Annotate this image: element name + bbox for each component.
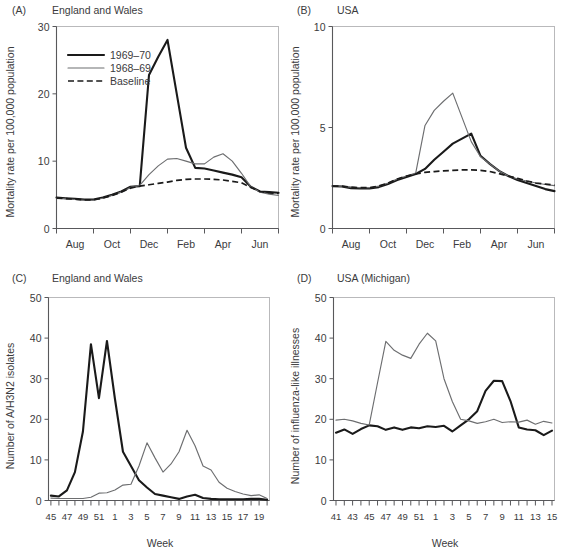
panel-b-tick-labels: 0510AugOctDecFebAprJun (314, 21, 545, 250)
panel-a-axes (57, 27, 279, 229)
panel-b-axes (333, 27, 555, 229)
series-line (333, 170, 555, 188)
panel-d-series (336, 333, 552, 435)
ytick-label: 0 (36, 495, 42, 507)
xtick-label: 5 (144, 511, 149, 522)
xtick-label: 9 (500, 511, 505, 522)
ytick-label: 0 (44, 223, 50, 235)
xtick-label: Aug (342, 238, 361, 250)
series-line (51, 430, 267, 498)
xtick-label: Feb (177, 238, 195, 250)
panel-c-axes (49, 298, 270, 501)
xtick-label: Oct (104, 238, 120, 250)
xtick-label: 45 (46, 511, 57, 522)
panel-b-frame (333, 27, 555, 229)
legend-label-1969-70: 1969–70 (110, 49, 151, 61)
panel-a: (A) England and Wales Mortality rate per… (0, 0, 285, 266)
panel-c-series (51, 341, 267, 500)
panel-b-chart: (B) USA Mortality rate per 100,000 popul… (285, 0, 567, 266)
panel-d-chart: (D) USA (Michigan) Number of influenza-l… (285, 266, 567, 553)
panel-c-xlabel: Week (147, 537, 174, 549)
xtick-label: 1 (433, 511, 438, 522)
ytick-label: 30 (315, 373, 327, 385)
panel-d-xlabel: Week (432, 537, 459, 549)
series-line (336, 333, 552, 425)
ytick-label: 50 (30, 292, 42, 304)
xtick-label: Jun (252, 238, 269, 250)
panel-d-ticks (330, 298, 553, 506)
panel-d-plot-area: 0102030405041434547495113579111315 (315, 292, 557, 522)
panel-a-legend: 1969–70 1968–69 Baseline (68, 49, 151, 87)
xtick-label: Dec (140, 238, 159, 250)
xtick-label: 3 (128, 511, 133, 522)
xtick-label: 15 (547, 511, 558, 522)
panel-b-title: USA (337, 4, 359, 16)
xtick-label: 41 (331, 511, 342, 522)
xtick-label: Apr (491, 238, 508, 250)
panel-b-series (333, 93, 555, 191)
ytick-label: 0 (321, 495, 327, 507)
xtick-label: 43 (347, 511, 358, 522)
panel-d-axes (334, 298, 555, 501)
panel-b-ticks (329, 27, 555, 234)
panel-b: (B) USA Mortality rate per 100,000 popul… (285, 0, 567, 266)
xtick-label: Apr (215, 238, 232, 250)
series-line (57, 40, 279, 200)
panel-c: (C) England and Wales Number of A/H3N2 i… (0, 266, 285, 553)
ytick-label: 10 (315, 454, 327, 466)
series-line (333, 134, 555, 192)
xtick-label: 1 (112, 511, 117, 522)
panel-c-title: England and Wales (52, 272, 143, 284)
ytick-label: 20 (315, 413, 327, 425)
panel-d-tick-labels: 0102030405041434547495113579111315 (315, 292, 557, 522)
panel-c-ylabel: Number of A/H3N2 isolates (4, 343, 16, 470)
xtick-label: Dec (416, 238, 435, 250)
series-line (336, 381, 552, 435)
xtick-label: 9 (176, 511, 181, 522)
xtick-label: 3 (450, 511, 455, 522)
ytick-label: 30 (38, 21, 50, 33)
xtick-label: 17 (238, 511, 249, 522)
ytick-label: 10 (30, 454, 42, 466)
panel-a-tag: (A) (12, 4, 26, 16)
ytick-label: 20 (38, 88, 50, 100)
xtick-label: 15 (222, 511, 233, 522)
panel-d-title: USA (Michigan) (337, 272, 410, 284)
panel-a-ticks (53, 27, 279, 234)
xtick-label: 7 (160, 511, 165, 522)
panel-a-ylabel: Mortality rate per 100,000 population (4, 46, 16, 217)
xtick-label: 51 (94, 511, 105, 522)
xtick-label: 11 (190, 511, 200, 522)
xtick-label: 19 (254, 511, 265, 522)
xtick-label: 7 (483, 511, 488, 522)
panel-c-frame (49, 298, 270, 501)
xtick-label: 13 (206, 511, 217, 522)
ytick-label: 10 (314, 21, 326, 33)
xtick-label: Jun (528, 238, 545, 250)
panel-d-tag: (D) (297, 272, 312, 284)
series-line (57, 154, 279, 200)
ytick-label: 0 (320, 223, 326, 235)
xtick-label: Feb (453, 238, 471, 250)
panel-a-frame (57, 27, 279, 229)
legend-label-baseline: Baseline (110, 75, 150, 87)
xtick-label: 11 (514, 511, 524, 522)
panel-a-title: England and Wales (52, 4, 143, 16)
panel-b-plot-area: 0510AugOctDecFebAprJun (314, 21, 555, 250)
ytick-label: 30 (30, 373, 42, 385)
xtick-label: 51 (414, 511, 425, 522)
xtick-label: 13 (530, 511, 541, 522)
panel-a-series (57, 40, 279, 200)
panel-c-chart: (C) England and Wales Number of A/H3N2 i… (0, 266, 285, 553)
xtick-label: 45 (364, 511, 375, 522)
ytick-label: 50 (315, 292, 327, 304)
ytick-label: 5 (320, 122, 326, 134)
xtick-label: Oct (380, 238, 396, 250)
panel-c-ticks (45, 298, 268, 506)
panel-d-ylabel: Number of influenza-like illnesses (289, 328, 301, 484)
figure-container: (A) England and Wales Mortality rate per… (0, 0, 567, 553)
panel-b-tag: (B) (297, 4, 311, 16)
xtick-label: 47 (62, 511, 73, 522)
panel-d-frame (334, 298, 555, 501)
xtick-label: Aug (66, 238, 85, 250)
